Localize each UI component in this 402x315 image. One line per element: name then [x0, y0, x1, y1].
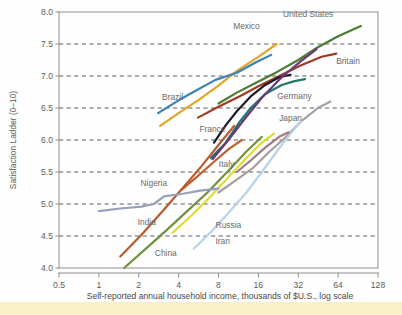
income-satisfaction-chart: 4.04.55.05.56.06.57.07.58.0 0.5124816326…: [0, 0, 402, 315]
series-line-japan: [219, 102, 331, 193]
series-label-france: France: [199, 124, 225, 134]
series-label-india: India: [138, 217, 157, 227]
x-tick-label: 128: [371, 280, 386, 290]
x-tick-label: 32: [293, 280, 303, 290]
y-tick-label: 7.0: [41, 71, 53, 81]
y-tick-label: 7.5: [41, 39, 53, 49]
y-tick-label: 4.0: [41, 263, 53, 273]
x-axis-ticks-group: 0.51248163264128: [53, 273, 385, 290]
y-tick-label: 8.0: [41, 7, 53, 17]
y-tick-label: 5.5: [41, 167, 53, 177]
y-tick-label: 6.0: [41, 135, 53, 145]
y-tick-label: 4.5: [41, 231, 53, 241]
series-label-russia: Russia: [216, 220, 242, 230]
data-series-group: [99, 26, 361, 268]
y-axis-title: Satisfaction Ladder (0–10): [8, 91, 18, 189]
series-line-iran: [194, 121, 302, 249]
series-label-britain: Britain: [336, 56, 360, 66]
y-tick-label: 5.0: [41, 199, 53, 209]
series-label-iran: Iran: [215, 236, 230, 246]
series-labels-group: United StatesBritainMexicoBrazilGermanyF…: [138, 9, 361, 258]
x-tick-label: 64: [333, 280, 343, 290]
x-tick-label: 4: [176, 280, 181, 290]
series-label-mexico: Mexico: [233, 21, 260, 31]
y-tick-label: 6.5: [41, 103, 53, 113]
x-tick-label: 0.5: [53, 280, 65, 290]
x-axis-title: Self-reported annual household income, t…: [87, 291, 354, 301]
x-tick-label: 8: [216, 280, 221, 290]
series-label-germany: Germany: [277, 91, 312, 101]
gridlines-group: [59, 44, 378, 236]
series-label-china: China: [155, 248, 177, 258]
x-tick-label: 2: [136, 280, 141, 290]
series-label-united-states: United States: [283, 9, 333, 19]
series-label-nigeria: Nigeria: [141, 178, 168, 188]
series-label-brazil: Brazil: [162, 92, 183, 102]
x-tick-label: 1: [96, 280, 101, 290]
y-axis-ticks-group: 4.04.55.05.56.06.57.07.58.0: [41, 7, 59, 273]
chart-canvas: 4.04.55.05.56.06.57.07.58.0 0.5124816326…: [0, 0, 402, 315]
x-tick-label: 16: [254, 280, 264, 290]
plot-frame-group: [58, 12, 379, 273]
series-label-italy: Italy: [219, 159, 235, 169]
series-label-japan: Japan: [279, 113, 302, 123]
bottom-color-band: [0, 302, 402, 315]
